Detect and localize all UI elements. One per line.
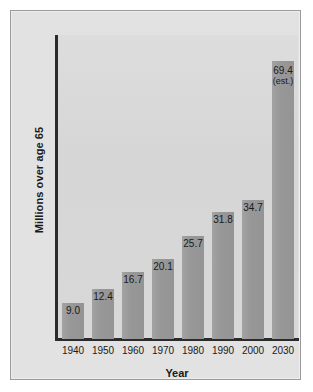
bar-group: 12.4 xyxy=(88,35,118,339)
bar-value-label: 34.7 xyxy=(238,202,268,213)
bar-value-label: 25.7 xyxy=(178,238,208,249)
bar-value-label: 12.4 xyxy=(88,291,118,302)
chart-frame: Millions over age 65 9.012.416.720.125.7… xyxy=(10,10,301,380)
bar-group: 34.7 xyxy=(238,35,268,339)
bars-container: 9.012.416.720.125.731.834.769.4(est.) xyxy=(58,35,298,339)
bar[interactable] xyxy=(272,61,294,339)
x-tick-label: 1990 xyxy=(208,345,238,356)
bar-group: 31.8 xyxy=(208,35,238,339)
bar-value-label: 31.8 xyxy=(208,214,238,225)
bar-group: 16.7 xyxy=(118,35,148,339)
bar-group: 20.1 xyxy=(148,35,178,339)
bar-group: 69.4(est.) xyxy=(268,35,298,339)
y-axis-title: Millions over age 65 xyxy=(33,90,45,270)
bar[interactable] xyxy=(242,200,264,339)
bar-group: 25.7 xyxy=(178,35,208,339)
x-tick-label: 2000 xyxy=(238,345,268,356)
figure-bar-chart-millions-over-age-65: Millions over age 65 9.012.416.720.125.7… xyxy=(0,0,313,392)
bar[interactable] xyxy=(212,212,234,339)
bar-value-label: 9.0 xyxy=(58,305,88,316)
x-axis-tick-labels: 19401950196019701980199020002030 xyxy=(58,345,298,361)
x-tick-label: 1950 xyxy=(88,345,118,356)
x-tick-label: 1980 xyxy=(178,345,208,356)
x-tick-label: 1940 xyxy=(58,345,88,356)
bar-estimate-annotation: (est.) xyxy=(268,76,298,87)
x-tick-label: 1960 xyxy=(118,345,148,356)
bar-value-label: 16.7 xyxy=(118,274,148,285)
bar[interactable] xyxy=(182,236,204,339)
x-tick-label: 2030 xyxy=(268,345,298,356)
bar-value-label: 20.1 xyxy=(148,261,178,272)
x-tick-label: 1970 xyxy=(148,345,178,356)
bar-value-label: 69.4(est.) xyxy=(268,65,298,87)
x-axis-title: Year xyxy=(55,367,299,379)
bar-group: 9.0 xyxy=(58,35,88,339)
